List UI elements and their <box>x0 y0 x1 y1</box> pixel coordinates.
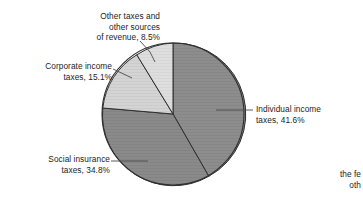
clipped-body-text: the fe oth <box>300 169 361 190</box>
pie-label-individual-income-taxes: Individual income taxes, 41.6% <box>256 104 361 125</box>
pie-label-other-taxes: Other taxes and other sources of revenue… <box>36 11 160 43</box>
pie-label-social-insurance-taxes: Social insurance taxes, 34.8% <box>6 154 110 175</box>
pie-label-corporate-income-taxes: Corporate income taxes, 15.1% <box>2 61 112 82</box>
pie-chart-figure: Other taxes and other sources of revenue… <box>0 0 363 201</box>
